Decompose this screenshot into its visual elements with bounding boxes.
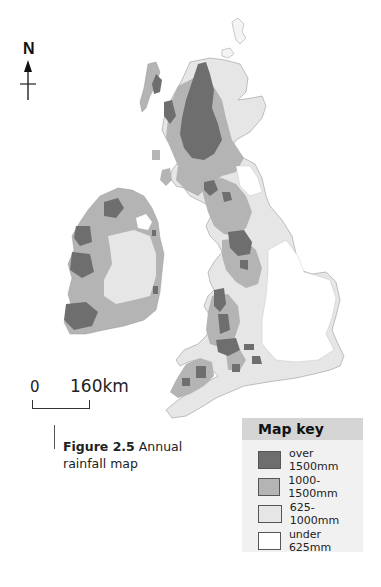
figure-caption: Figure 2.5 Annual rainfall map: [63, 438, 183, 472]
swatch-over-1500: [258, 451, 281, 469]
swatch-625-1000: [258, 505, 282, 523]
north-label: N: [23, 40, 35, 58]
map-key-item: over 1500mm: [242, 446, 363, 473]
caption-rule: [54, 425, 55, 449]
swatch-under-625: [258, 532, 281, 550]
scale-bar-line: [32, 400, 90, 409]
ireland-landmass: [64, 188, 164, 334]
map-key-title: Map key: [242, 418, 363, 440]
north-indicator: N: [20, 40, 40, 102]
map-key: Map key over 1500mm 1000-1500mm 625-1000…: [242, 418, 363, 552]
map-key-label: under 625mm: [289, 528, 363, 554]
scale-bar: 0 160km: [30, 378, 140, 418]
scale-start-label: 0: [30, 378, 40, 396]
scale-end-label: 160km: [70, 376, 129, 396]
map-key-label: over 1500mm: [289, 447, 363, 473]
map-key-item: under 625mm: [242, 527, 363, 554]
map-key-label: 625-1000mm: [290, 501, 363, 527]
map-key-item: 625-1000mm: [242, 500, 363, 527]
map-key-item: 1000-1500mm: [242, 473, 363, 500]
swatch-1000-1500: [258, 478, 280, 496]
figure-number: Figure 2.5: [63, 439, 135, 454]
map-key-label: 1000-1500mm: [288, 474, 363, 500]
